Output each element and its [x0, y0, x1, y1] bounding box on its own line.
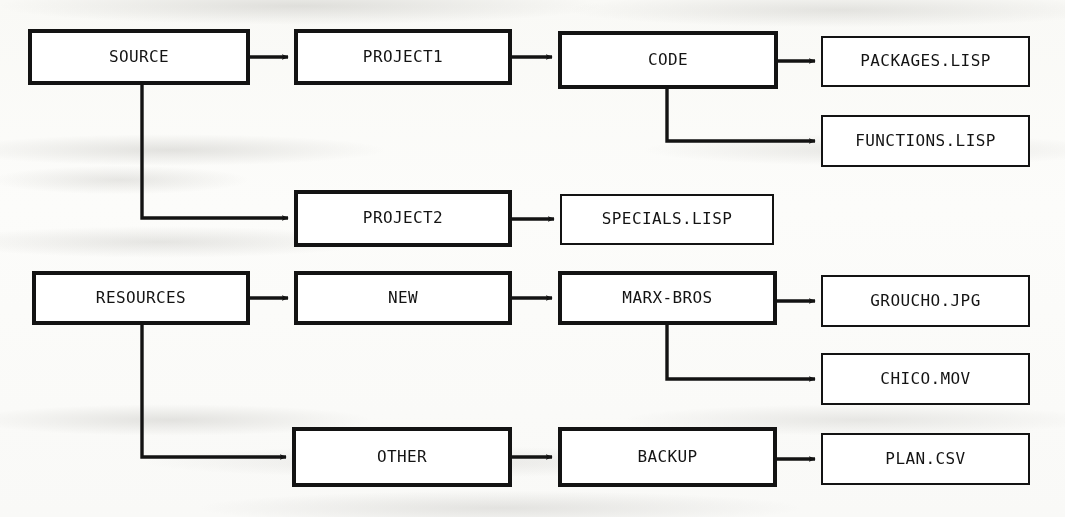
node-label: PACKAGES.LISP [860, 51, 990, 70]
directory-node-resources[interactable]: RESOURCES [32, 271, 250, 325]
node-label: CODE [648, 50, 688, 69]
node-label: NEW [388, 288, 418, 307]
file-node-chico[interactable]: CHICO.MOV [821, 353, 1030, 405]
node-label: OTHER [377, 447, 427, 466]
edge-source-project2 [142, 85, 288, 218]
directory-node-source[interactable]: SOURCE [28, 29, 250, 85]
node-label: SOURCE [109, 47, 169, 66]
node-label: FUNCTIONS.LISP [855, 131, 995, 150]
file-node-specials[interactable]: SPECIALS.LISP [560, 194, 774, 245]
directory-node-other[interactable]: OTHER [292, 427, 512, 487]
node-label: PROJECT2 [363, 208, 443, 227]
directory-node-new[interactable]: NEW [294, 271, 512, 325]
file-node-groucho[interactable]: GROUCHO.JPG [821, 275, 1030, 327]
edge-marxbros-chico [667, 325, 815, 379]
node-label: PROJECT1 [363, 47, 443, 66]
node-label: SPECIALS.LISP [602, 209, 732, 228]
directory-node-project1[interactable]: PROJECT1 [294, 29, 512, 85]
node-label: PLAN.CSV [885, 449, 965, 468]
file-node-functions[interactable]: FUNCTIONS.LISP [821, 115, 1030, 167]
directory-node-backup[interactable]: BACKUP [558, 427, 777, 487]
directory-node-project2[interactable]: PROJECT2 [294, 190, 512, 247]
directory-node-code[interactable]: CODE [558, 31, 778, 89]
node-label: BACKUP [637, 447, 697, 466]
node-label: CHICO.MOV [880, 369, 970, 388]
node-label: MARX-BROS [622, 288, 712, 307]
diagram-page: SOURCEPROJECT1CODEPACKAGES.LISPFUNCTIONS… [0, 0, 1065, 517]
node-label: RESOURCES [96, 288, 186, 307]
edge-resources-other [142, 325, 286, 457]
node-label: GROUCHO.JPG [870, 291, 980, 310]
file-node-plan[interactable]: PLAN.CSV [821, 433, 1030, 485]
file-node-packages[interactable]: PACKAGES.LISP [821, 36, 1030, 87]
directory-node-marxbros[interactable]: MARX-BROS [558, 271, 777, 325]
edge-code-functions [667, 89, 815, 141]
